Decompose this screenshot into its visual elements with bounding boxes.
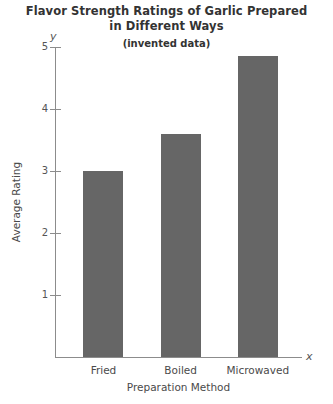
y-axis-line [55, 48, 56, 358]
y-tick-label: 2 [26, 228, 48, 238]
y-tick-mark [50, 171, 61, 172]
y-tick-label-text: 2 [32, 228, 48, 238]
plot-area: y x 54321 FriedBoiledMicrowaved Preparat… [0, 0, 333, 404]
bar-boiled [161, 134, 201, 357]
y-tick-mark [50, 295, 61, 296]
category-label-microwaved: Microwaved [213, 364, 303, 377]
x-axis-title: Preparation Method [55, 381, 302, 393]
y-tick-mark [50, 109, 61, 110]
bar-microwaved [238, 56, 278, 357]
y-axis-symbol: y [50, 30, 57, 43]
y-tick-label: 4 [26, 104, 48, 114]
bar-fried [83, 171, 123, 357]
y-tick-mark [50, 233, 61, 234]
y-tick-label: 1 [26, 290, 48, 300]
y-axis-title: Average Rating [10, 142, 22, 262]
x-axis-line [55, 357, 302, 358]
y-tick-label-text: 1 [32, 290, 48, 300]
bar-chart: Flavor Strength Ratings of Garlic Prepar… [0, 0, 333, 404]
y-tick-label-text: 4 [32, 104, 48, 114]
y-tick-label: 5 [26, 42, 48, 52]
x-axis-symbol: x [306, 350, 313, 363]
y-tick-label: 3 [26, 166, 48, 176]
y-tick-label-text: 3 [32, 166, 48, 176]
y-tick-label-text: 5 [32, 42, 48, 52]
y-tick-mark [50, 47, 61, 48]
